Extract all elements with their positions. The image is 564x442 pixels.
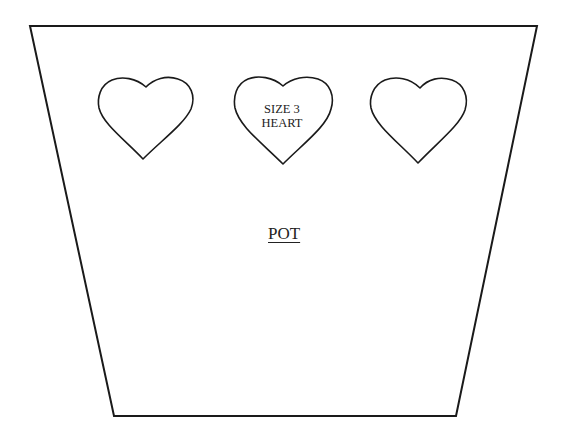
pot-label: POT xyxy=(268,224,300,244)
heart-type-text: HEART xyxy=(242,116,322,130)
heart-center-label: SIZE 3 HEART xyxy=(242,102,322,130)
heart-size-text: SIZE 3 xyxy=(242,102,322,116)
pot-pattern-diagram xyxy=(0,0,564,442)
